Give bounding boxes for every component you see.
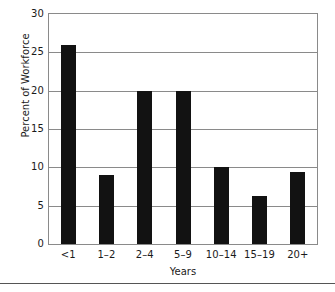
bars-layer (49, 14, 317, 244)
bar (290, 172, 305, 244)
bar (252, 196, 267, 244)
bar (137, 91, 152, 244)
x-tick-label: 20+ (273, 249, 323, 261)
y-tick-label-10: 10 (4, 162, 44, 172)
x-axis-title: Years (48, 266, 318, 278)
bar (99, 175, 114, 244)
y-axis-title: Percent of Workforce (20, 16, 31, 156)
bar (176, 91, 191, 244)
x-axis-tick-labels: <11–22–45–910–1415–1920+ (49, 249, 317, 263)
bar-chart-figure: 051015202530 Percent of Workforce <11–22… (0, 0, 335, 292)
y-tick-label-0: 0 (4, 239, 44, 249)
bar (214, 167, 229, 244)
page-divider-rule (0, 283, 335, 284)
y-tick-label-5: 5 (4, 201, 44, 211)
bar (61, 45, 76, 244)
